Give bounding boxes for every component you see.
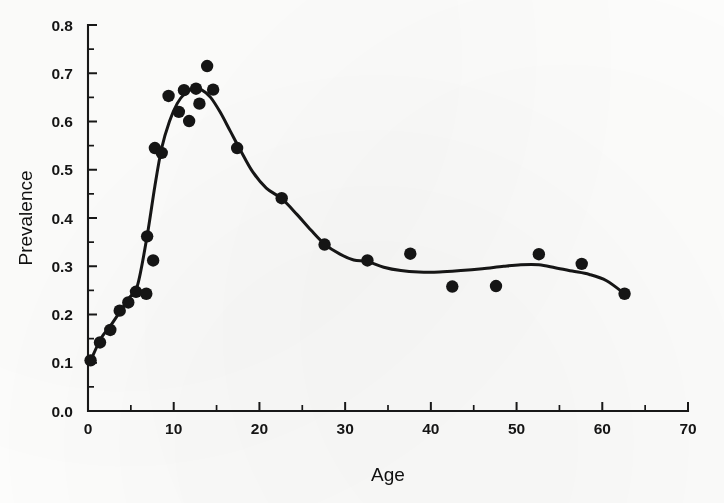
y-tick-label: 0.1 (51, 354, 73, 371)
y-tick-label: 0.3 (51, 258, 73, 275)
data-point-marker (276, 192, 288, 204)
data-point-marker (207, 83, 219, 95)
data-point-marker (173, 106, 185, 118)
data-point-marker (190, 82, 202, 94)
observed-data-points (84, 60, 630, 367)
x-axis-tick-labels: 010203040506070 (84, 420, 697, 437)
data-point-marker (178, 84, 190, 96)
y-tick-label: 0.5 (51, 161, 73, 178)
data-point-marker (446, 280, 458, 292)
data-point-marker (183, 115, 195, 127)
data-point-marker (201, 60, 213, 72)
figure-canvas: 010203040506070 0.00.10.20.30.40.50.60.7… (0, 0, 724, 503)
x-tick-label: 20 (251, 420, 268, 437)
data-point-marker (140, 288, 152, 300)
data-point-marker (162, 90, 174, 102)
x-tick-label: 30 (337, 420, 354, 437)
y-tick-label: 0.0 (51, 403, 73, 420)
x-tick-label: 50 (508, 420, 525, 437)
x-axis-title: Age (371, 464, 405, 485)
tick-marks-group (88, 25, 688, 411)
data-point-marker (318, 238, 330, 250)
data-point-marker (404, 248, 416, 260)
data-point-marker (94, 336, 106, 348)
axes-group (88, 25, 688, 411)
x-tick-label: 70 (679, 420, 696, 437)
x-tick-label: 60 (594, 420, 611, 437)
data-point-marker (156, 147, 168, 159)
prevalence-vs-age-chart: 010203040506070 0.00.10.20.30.40.50.60.7… (0, 0, 724, 503)
data-point-marker (193, 97, 205, 109)
data-point-marker (231, 142, 243, 154)
x-tick-label: 10 (165, 420, 182, 437)
data-point-marker (104, 324, 116, 336)
data-point-marker (533, 248, 545, 260)
data-point-marker (84, 354, 96, 366)
axis-spines (88, 25, 688, 411)
data-point-marker (490, 280, 502, 292)
y-tick-label: 0.7 (51, 65, 73, 82)
data-point-marker (361, 254, 373, 266)
data-point-marker (122, 296, 134, 308)
y-tick-label: 0.2 (51, 306, 73, 323)
x-tick-label: 40 (422, 420, 439, 437)
fitted-curve-path (91, 88, 625, 360)
data-point-marker (141, 230, 153, 242)
data-point-marker (576, 258, 588, 270)
y-axis-tick-labels: 0.00.10.20.30.40.50.60.70.8 (51, 17, 73, 420)
data-point-marker (130, 286, 142, 298)
x-tick-label: 0 (84, 420, 93, 437)
data-point-marker (147, 254, 159, 266)
y-axis-title: Prevalence (15, 170, 36, 265)
y-tick-label: 0.4 (51, 210, 73, 227)
y-tick-label: 0.6 (51, 113, 73, 130)
smoothed-fit-curve (91, 88, 625, 360)
y-tick-label: 0.8 (51, 17, 73, 34)
data-point-marker (618, 288, 630, 300)
